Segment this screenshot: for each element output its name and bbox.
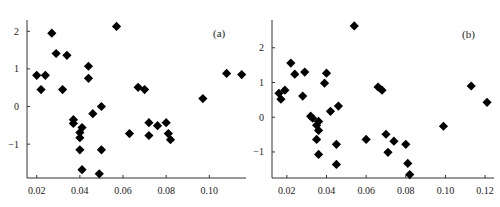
data-point-diamond xyxy=(381,130,390,139)
data-point-diamond xyxy=(36,85,45,94)
y-tick-label: −1 xyxy=(8,139,19,150)
data-point-diamond xyxy=(322,69,331,78)
data-point-diamond xyxy=(125,129,134,138)
x-tick-label: 0.04 xyxy=(318,185,336,196)
data-point-diamond xyxy=(389,137,398,146)
figure: 0.020.040.060.080.10−1012 (a) 0.020.040.… xyxy=(0,0,500,207)
y-tick-label: 1 xyxy=(14,63,19,74)
x-tick-label: 0.08 xyxy=(397,185,415,196)
data-point-diamond xyxy=(312,135,321,144)
data-point-diamond xyxy=(286,58,295,67)
data-point-diamond xyxy=(482,98,491,107)
x-tick-label: 0.06 xyxy=(114,185,132,196)
panel-b-axes: 0.020.040.060.080.100.12−1012 xyxy=(253,20,494,196)
data-point-diamond xyxy=(75,145,84,154)
data-point-diamond xyxy=(320,79,329,88)
data-point-diamond xyxy=(144,131,153,140)
panel-b-label: (b) xyxy=(462,28,475,41)
data-point-diamond xyxy=(52,49,61,58)
data-point-diamond xyxy=(41,71,50,80)
data-point-diamond xyxy=(62,51,71,60)
x-tick-label: 0.02 xyxy=(28,185,46,196)
panel-b: 0.020.040.060.080.100.12−1012 (b) xyxy=(253,20,494,196)
data-point-diamond xyxy=(32,71,41,80)
data-point-diamond xyxy=(153,121,162,130)
data-point-diamond xyxy=(467,81,476,90)
x-tick-label: 0.06 xyxy=(357,185,375,196)
data-point-diamond xyxy=(112,22,121,31)
data-point-diamond xyxy=(362,135,371,144)
x-tick-label: 0.10 xyxy=(201,185,219,196)
data-point-diamond xyxy=(144,118,153,127)
data-point-diamond xyxy=(75,133,84,142)
data-point-diamond xyxy=(439,122,448,131)
data-point-diamond xyxy=(58,85,67,94)
data-point-diamond xyxy=(88,109,97,118)
data-point-diamond xyxy=(334,102,343,111)
data-point-diamond xyxy=(95,169,104,178)
panel-a: 0.020.040.060.080.10−1012 (a) xyxy=(8,20,246,196)
data-point-diamond xyxy=(237,70,246,79)
data-point-diamond xyxy=(403,159,412,168)
x-tick-label: 0.10 xyxy=(437,185,455,196)
data-point-diamond xyxy=(222,69,231,78)
panel-a-label: (a) xyxy=(213,27,226,40)
panel-b-points xyxy=(274,21,491,179)
y-tick-label: 2 xyxy=(14,26,19,37)
data-point-diamond xyxy=(332,160,341,169)
data-point-diamond xyxy=(162,118,171,127)
data-point-diamond xyxy=(383,148,392,157)
data-point-diamond xyxy=(350,21,359,30)
data-point-diamond xyxy=(47,29,56,38)
data-point-diamond xyxy=(97,102,106,111)
data-point-diamond xyxy=(97,145,106,154)
y-tick-label: 1 xyxy=(259,77,264,88)
scatter-figure: 0.020.040.060.080.10−1012 (a) 0.020.040.… xyxy=(0,0,500,207)
x-tick-label: 0.02 xyxy=(278,185,296,196)
data-point-diamond xyxy=(84,62,93,71)
x-tick-label: 0.04 xyxy=(71,185,89,196)
data-point-diamond xyxy=(290,70,299,79)
y-tick-label: 2 xyxy=(259,42,264,53)
data-point-diamond xyxy=(314,150,323,159)
data-point-diamond xyxy=(300,67,309,76)
data-point-diamond xyxy=(326,107,335,116)
data-point-diamond xyxy=(401,140,410,149)
x-tick-label: 0.12 xyxy=(476,185,494,196)
panel-a-points xyxy=(32,22,246,179)
data-point-diamond xyxy=(198,94,207,103)
y-tick-label: 0 xyxy=(259,112,264,123)
data-point-diamond xyxy=(84,74,93,83)
data-point-diamond xyxy=(332,140,341,149)
y-tick-label: 0 xyxy=(14,101,19,112)
x-tick-label: 0.08 xyxy=(157,185,175,196)
panel-a-axes: 0.020.040.060.080.10−1012 xyxy=(8,20,246,196)
y-tick-label: −1 xyxy=(253,146,264,157)
data-point-diamond xyxy=(77,165,86,174)
data-point-diamond xyxy=(298,91,307,100)
